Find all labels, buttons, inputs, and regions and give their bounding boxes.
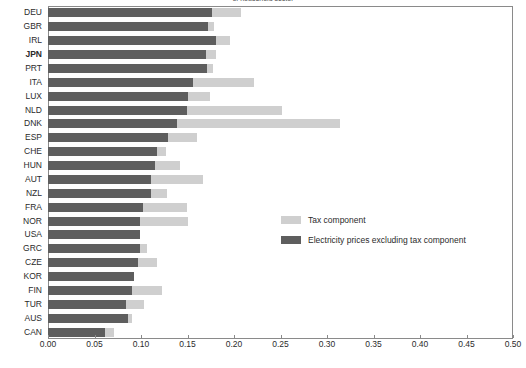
category-label-aut: AUT xyxy=(0,173,42,186)
bar-row: KOR xyxy=(0,270,526,283)
bar-row: DNK xyxy=(0,117,526,130)
category-label-irl: IRL xyxy=(0,34,42,47)
category-label-usa: USA xyxy=(0,228,42,241)
x-tick-mark xyxy=(467,335,468,338)
x-tick-mark xyxy=(188,335,189,338)
category-label-fin: FIN xyxy=(0,284,42,297)
x-tick-mark xyxy=(420,335,421,338)
bar-segment-price-ex-tax xyxy=(48,92,188,101)
bar-segment-price-ex-tax xyxy=(48,78,193,87)
bar-segment-tax xyxy=(140,244,147,253)
x-tick-label: 0.35 xyxy=(354,339,394,349)
bar-segment-tax xyxy=(151,189,167,198)
chart-title: of household sector xyxy=(0,0,526,2)
category-label-che: CHE xyxy=(0,145,42,158)
bar-segment-tax xyxy=(193,78,253,87)
x-tick-label: 0.25 xyxy=(261,339,301,349)
bar-segment-price-ex-tax xyxy=(48,64,207,73)
bar-row: LUX xyxy=(0,90,526,103)
bar-row: AUT xyxy=(0,173,526,186)
category-label-deu: DEU xyxy=(0,6,42,19)
stacked-bar-aus xyxy=(48,314,513,323)
legend-label-price-ex-tax: Electricity prices excluding tax compone… xyxy=(308,235,466,245)
x-tick-mark xyxy=(95,335,96,338)
legend-item-price-ex-tax: Electricity prices excluding tax compone… xyxy=(281,230,466,250)
x-tick-label: 0.30 xyxy=(307,339,347,349)
bar-segment-tax xyxy=(132,286,163,295)
bar-row: NZL xyxy=(0,187,526,200)
bar-segment-price-ex-tax xyxy=(48,203,143,212)
bar-segment-price-ex-tax xyxy=(48,50,206,59)
category-label-hun: HUN xyxy=(0,159,42,172)
category-label-nor: NOR xyxy=(0,215,42,228)
x-tick-label: 0.10 xyxy=(121,339,161,349)
bar-segment-tax xyxy=(126,300,144,309)
bar-segment-price-ex-tax xyxy=(48,244,140,253)
bar-segment-tax xyxy=(138,258,157,267)
bar-row: ESP xyxy=(0,131,526,144)
bar-row: NLD xyxy=(0,104,526,117)
category-label-jpn: JPN xyxy=(0,48,42,61)
bar-segment-price-ex-tax xyxy=(48,22,208,31)
chart-legend: Tax component Electricity prices excludi… xyxy=(281,210,466,250)
x-tick-mark xyxy=(48,335,49,338)
bar-segment-tax xyxy=(206,50,216,59)
category-label-dnk: DNK xyxy=(0,117,42,130)
bar-segment-price-ex-tax xyxy=(48,161,155,170)
bar-segment-tax xyxy=(105,328,114,337)
stacked-bar-gbr xyxy=(48,22,513,31)
bar-segment-tax xyxy=(212,8,241,17)
category-label-prt: PRT xyxy=(0,62,42,75)
stacked-bar-hun xyxy=(48,161,513,170)
category-label-nzl: NZL xyxy=(0,187,42,200)
stacked-bar-nzl xyxy=(48,189,513,198)
x-tick-label: 0.50 xyxy=(493,339,526,349)
stacked-bar-lux xyxy=(48,92,513,101)
category-label-nld: NLD xyxy=(0,104,42,117)
x-tick-label: 0.05 xyxy=(75,339,115,349)
stacked-bar-esp xyxy=(48,133,513,142)
bar-segment-tax xyxy=(155,161,180,170)
bar-row: AUS xyxy=(0,312,526,325)
bar-row: JPN xyxy=(0,48,526,61)
bar-segment-price-ex-tax xyxy=(48,272,134,281)
stacked-bar-prt xyxy=(48,64,513,73)
category-label-esp: ESP xyxy=(0,131,42,144)
bar-segment-price-ex-tax xyxy=(48,286,132,295)
category-label-gbr: GBR xyxy=(0,20,42,33)
x-tick-label: 0.45 xyxy=(447,339,487,349)
bar-segment-tax xyxy=(208,22,214,31)
bar-segment-tax xyxy=(151,175,203,184)
x-tick-label: 0.00 xyxy=(28,339,68,349)
category-label-ita: ITA xyxy=(0,76,42,89)
legend-swatch-tax xyxy=(281,216,301,224)
x-tick-label: 0.15 xyxy=(168,339,208,349)
bar-row: HUN xyxy=(0,159,526,172)
stacked-bar-dnk xyxy=(48,119,513,128)
bar-segment-price-ex-tax xyxy=(48,147,157,156)
category-label-can: CAN xyxy=(0,326,42,339)
electricity-price-chart: of household sector DEUGBRIRLJPNPRTITALU… xyxy=(0,0,526,368)
x-tick-mark xyxy=(513,335,514,338)
stacked-bar-irl xyxy=(48,36,513,45)
bar-row: ITA xyxy=(0,76,526,89)
bar-segment-tax xyxy=(188,92,209,101)
bar-segment-tax xyxy=(128,314,132,323)
bar-row: CZE xyxy=(0,256,526,269)
stacked-bar-deu xyxy=(48,8,513,17)
bar-segment-price-ex-tax xyxy=(48,106,187,115)
bar-row: CHE xyxy=(0,145,526,158)
bar-segment-tax xyxy=(168,133,197,142)
x-tick-mark xyxy=(234,335,235,338)
bar-row: PRT xyxy=(0,62,526,75)
legend-label-tax: Tax component xyxy=(308,215,366,225)
stacked-bar-aut xyxy=(48,175,513,184)
x-tick-mark xyxy=(141,335,142,338)
bar-row: TUR xyxy=(0,298,526,311)
category-label-kor: KOR xyxy=(0,270,42,283)
bar-segment-tax xyxy=(207,64,213,73)
x-tick-label: 0.20 xyxy=(214,339,254,349)
bar-segment-price-ex-tax xyxy=(48,175,151,184)
category-label-grc: GRC xyxy=(0,242,42,255)
bar-segment-price-ex-tax xyxy=(48,314,128,323)
